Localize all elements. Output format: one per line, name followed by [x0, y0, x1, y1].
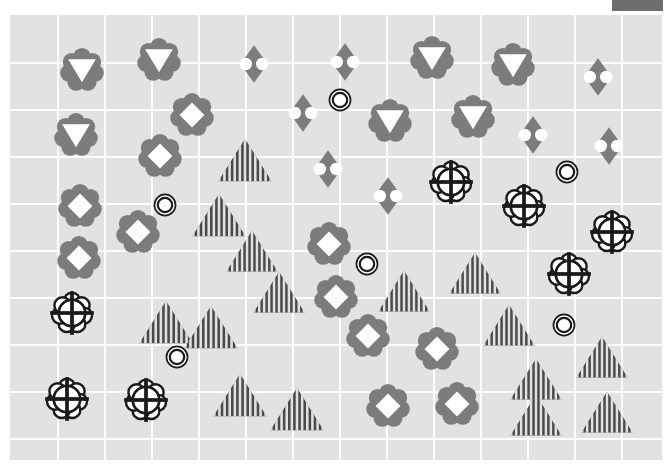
legend-swatch: [612, 0, 663, 11]
gridline-vertical: [198, 15, 200, 460]
gridline-horizontal: [10, 297, 662, 299]
gridline-vertical: [527, 15, 529, 460]
gridline-horizontal: [10, 250, 662, 252]
gridline-vertical: [292, 15, 294, 460]
gridline-vertical: [621, 15, 623, 460]
scatter-plot-area[interactable]: [10, 15, 662, 460]
gridline-horizontal: [10, 391, 662, 393]
gridline-vertical: [480, 15, 482, 460]
plot-background: [10, 15, 662, 460]
gridline-horizontal: [10, 203, 662, 205]
gridline-horizontal: [10, 109, 662, 111]
gridline-vertical: [151, 15, 153, 460]
gridline-vertical: [574, 15, 576, 460]
gridline-vertical: [57, 15, 59, 460]
gridline-vertical: [433, 15, 435, 460]
gridline-horizontal: [10, 344, 662, 346]
gridline-vertical: [104, 15, 106, 460]
gridline-vertical: [245, 15, 247, 460]
gridline-vertical: [386, 15, 388, 460]
gridline-horizontal: [10, 438, 662, 440]
gridline-horizontal: [10, 156, 662, 158]
gridline-horizontal: [10, 62, 662, 64]
screenshot-root: [0, 0, 672, 474]
gridline-vertical: [339, 15, 341, 460]
